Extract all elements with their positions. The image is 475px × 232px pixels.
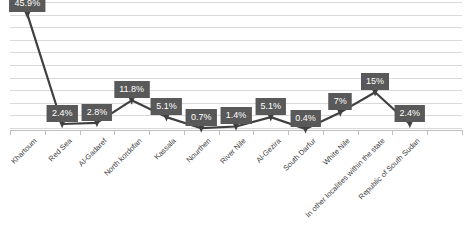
gridline [10,103,462,104]
data-label: 0.7% [186,109,217,126]
x-axis-tick [184,130,185,135]
gridline [10,27,462,28]
category-label: Al-Gadaref [77,137,108,168]
data-label: 45.9% [10,0,46,12]
category-label: Al-Gezira [255,137,283,165]
x-axis-tick [323,130,324,135]
data-label: 1.4% [221,107,252,124]
x-axis-line [10,130,462,131]
x-axis-tick [427,130,428,135]
x-axis-tick [358,130,359,135]
x-axis-tick [114,130,115,135]
gridline [10,15,462,16]
data-label: 0.4% [290,110,321,127]
gridline [10,90,462,91]
gridline [10,40,462,41]
gridline [10,52,462,53]
data-label: 5.1% [256,98,287,115]
gridline [10,78,462,79]
category-label: Kassala [154,137,179,162]
x-axis-tick [462,130,463,135]
x-axis-tick [149,130,150,135]
x-axis-tick [288,130,289,135]
category-label: White Nile [322,137,352,167]
gridline [10,65,462,66]
category-label: Nourthen [185,137,212,164]
data-label: 11.8% [114,81,149,98]
x-axis-tick [45,130,46,135]
data-label: 15% [361,73,389,90]
category-label: Khartoum [10,137,39,166]
category-label: South Darfur [281,137,317,173]
data-label: 2.4% [395,105,426,122]
data-label: 2.8% [82,104,113,121]
gridline [10,2,462,3]
x-axis-tick [253,130,254,135]
x-axis-tick [10,130,11,135]
data-label: 5.1% [151,98,182,115]
gridline [10,128,462,129]
x-axis-tick [80,130,81,135]
x-axis-tick [392,130,393,135]
category-label: River Nile [219,137,248,166]
category-label: Red Sea [48,137,74,163]
data-label: 2.4% [47,105,78,122]
category-label: Republic of South Sudan [357,137,421,201]
x-axis-tick [219,130,220,135]
line-chart: 45.9%2.4%2.8%11.8%5.1%0.7%1.4%5.1%0.4%7%… [0,0,475,232]
category-label: North kordofan [103,137,144,178]
data-label: 7% [329,93,352,110]
